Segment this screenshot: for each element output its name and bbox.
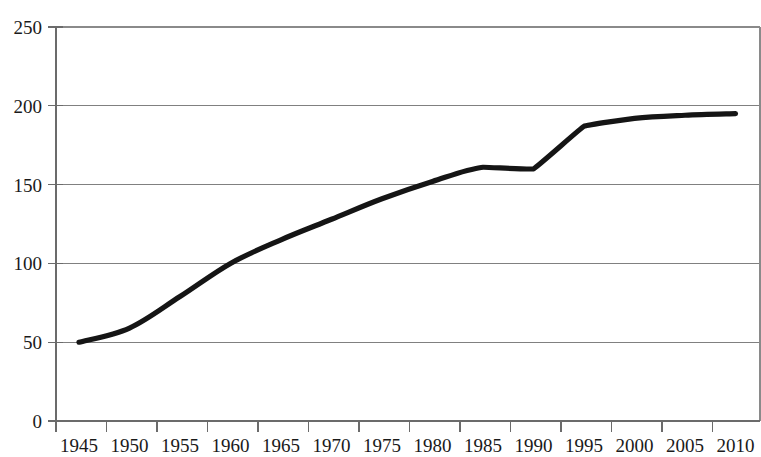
x-tick-label-1980: 1980 xyxy=(414,435,452,456)
plot-background xyxy=(56,27,760,421)
x-tick-labels: 1945195019551960196519701975198019851990… xyxy=(60,435,755,456)
x-tick-label-1945: 1945 xyxy=(60,435,98,456)
x-tick-label-1975: 1975 xyxy=(363,435,401,456)
y-tick-label-150: 150 xyxy=(14,175,43,196)
y-tick-label-100: 100 xyxy=(14,253,43,274)
x-tick-label-1965: 1965 xyxy=(262,435,300,456)
x-tick-label-2010: 2010 xyxy=(717,435,755,456)
y-tick-label-250: 250 xyxy=(14,17,43,38)
x-tick-label-1970: 1970 xyxy=(313,435,351,456)
y-tick-labels: 050100150200250 xyxy=(14,17,43,432)
line-chart: 050100150200250 194519501955196019651970… xyxy=(0,0,761,457)
x-tick-label-1985: 1985 xyxy=(464,435,502,456)
y-tick-label-0: 0 xyxy=(33,411,43,432)
x-tick-label-1990: 1990 xyxy=(515,435,553,456)
x-tick-label-2005: 2005 xyxy=(666,435,704,456)
x-tick-label-1995: 1995 xyxy=(565,435,603,456)
x-tick-marks xyxy=(56,421,713,432)
x-tick-label-1950: 1950 xyxy=(111,435,149,456)
x-tick-label-1955: 1955 xyxy=(161,435,199,456)
y-tick-label-200: 200 xyxy=(14,96,43,117)
y-tick-label-50: 50 xyxy=(23,332,42,353)
x-tick-label-2000: 2000 xyxy=(616,435,654,456)
x-tick-label-1960: 1960 xyxy=(212,435,250,456)
chart-canvas: 050100150200250 194519501955196019651970… xyxy=(0,0,761,457)
